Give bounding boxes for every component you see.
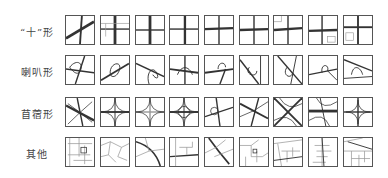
cross-interchange-thumbnail <box>308 15 338 45</box>
road-network-icon <box>101 98 129 126</box>
trumpet-interchange-thumbnail <box>135 55 165 85</box>
other-interchange-thumbnail <box>308 137 338 167</box>
road-network-icon <box>309 56 337 84</box>
cross-interchange-thumbnail <box>135 15 165 45</box>
road-network-icon <box>136 138 164 166</box>
road-network-icon <box>101 56 129 84</box>
cloverleaf-interchange-thumbnail <box>239 97 269 127</box>
road-network-icon <box>309 16 337 44</box>
other-interchange-thumbnail <box>343 137 373 167</box>
other-interchange-thumbnail <box>239 137 269 167</box>
other-interchange-thumbnail <box>100 137 130 167</box>
cloverleaf-interchange-thumbnail <box>135 97 165 127</box>
road-network-icon <box>205 138 233 166</box>
trumpet-interchange-thumbnail <box>308 55 338 85</box>
road-network-icon <box>66 16 94 44</box>
cloverleaf-interchange-thumbnail <box>100 97 130 127</box>
road-network-icon <box>240 16 268 44</box>
trumpet-interchange-thumbnail <box>65 55 95 85</box>
other-interchange-thumbnail <box>65 137 95 167</box>
road-network-icon <box>170 98 198 126</box>
cloverleaf-interchange-thumbnail <box>343 97 373 127</box>
cross-interchange-thumbnail <box>343 15 373 45</box>
trumpet-interchange-thumbnail <box>169 55 199 85</box>
trumpet-interchange-thumbnail <box>100 55 130 85</box>
road-network-icon <box>170 16 198 44</box>
cross-interchange-thumbnail <box>204 15 234 45</box>
row-label-cross: “十”形 <box>8 24 66 39</box>
cross-interchange-thumbnail <box>273 15 303 45</box>
road-network-icon <box>205 98 233 126</box>
road-network-icon <box>344 138 372 166</box>
row-label-other: 其他 <box>8 146 66 161</box>
trumpet-interchange-thumbnail <box>239 55 269 85</box>
other-interchange-thumbnail <box>169 137 199 167</box>
cross-interchange-thumbnail <box>65 15 95 45</box>
cloverleaf-interchange-thumbnail <box>308 97 338 127</box>
trumpet-interchange-thumbnail <box>343 55 373 85</box>
road-network-icon <box>274 16 302 44</box>
road-network-icon <box>205 56 233 84</box>
road-network-icon <box>101 16 129 44</box>
road-network-icon <box>66 98 94 126</box>
cloverleaf-interchange-thumbnail <box>273 97 303 127</box>
road-network-icon <box>170 56 198 84</box>
road-network-icon <box>240 138 268 166</box>
cross-interchange-thumbnail <box>239 15 269 45</box>
road-network-icon <box>274 98 302 126</box>
cloverleaf-interchange-thumbnail <box>169 97 199 127</box>
cross-interchange-thumbnail <box>169 15 199 45</box>
road-network-icon <box>344 98 372 126</box>
road-network-icon <box>274 56 302 84</box>
road-network-icon <box>274 138 302 166</box>
road-network-icon <box>136 56 164 84</box>
road-network-icon <box>344 56 372 84</box>
road-network-icon <box>101 138 129 166</box>
road-network-icon <box>344 16 372 44</box>
road-network-icon <box>240 56 268 84</box>
road-network-icon <box>205 16 233 44</box>
trumpet-interchange-thumbnail <box>273 55 303 85</box>
other-interchange-thumbnail <box>204 137 234 167</box>
road-network-icon <box>136 98 164 126</box>
trumpet-interchange-thumbnail <box>204 55 234 85</box>
cloverleaf-interchange-thumbnail <box>65 97 95 127</box>
road-network-icon <box>309 138 337 166</box>
road-network-icon <box>240 98 268 126</box>
road-network-icon <box>66 56 94 84</box>
cross-interchange-thumbnail <box>100 15 130 45</box>
row-label-trumpet: 喇叭形 <box>8 64 66 79</box>
road-network-icon <box>66 138 94 166</box>
road-network-icon <box>136 16 164 44</box>
road-network-icon <box>309 98 337 126</box>
other-interchange-thumbnail <box>135 137 165 167</box>
road-network-icon <box>170 138 198 166</box>
row-label-cloverleaf: 苜蓿形 <box>8 106 66 121</box>
cloverleaf-interchange-thumbnail <box>204 97 234 127</box>
other-interchange-thumbnail <box>273 137 303 167</box>
